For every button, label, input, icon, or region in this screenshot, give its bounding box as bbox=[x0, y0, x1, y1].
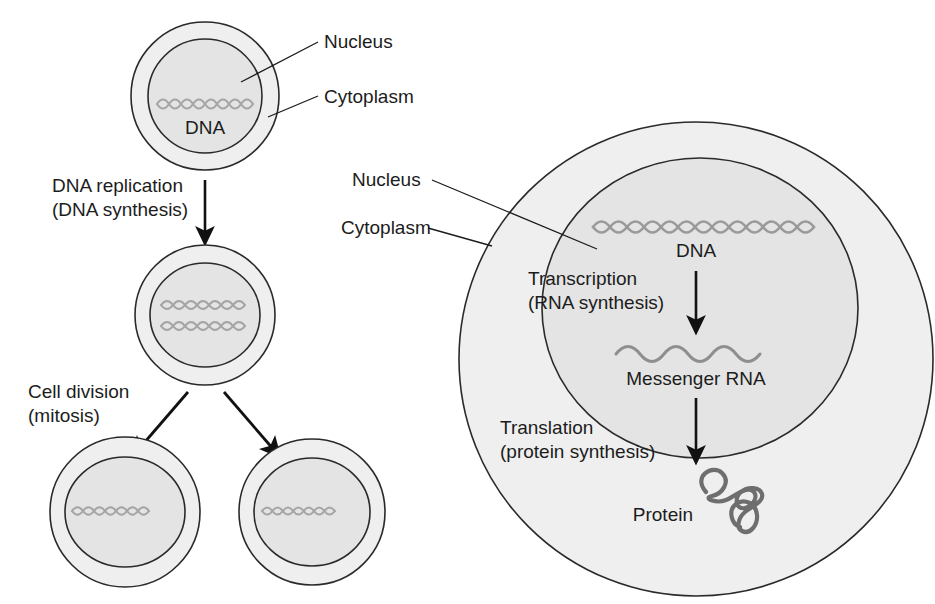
cell-division-arrow-right bbox=[224, 392, 274, 450]
parent-cell-dna-label: DNA bbox=[185, 117, 225, 138]
parent-cytoplasm-label: Cytoplasm bbox=[324, 86, 414, 107]
dna-replication-label-line1: DNA replication bbox=[52, 175, 183, 196]
right-cytoplasm-leader-line bbox=[428, 228, 492, 246]
gene-expression-cell bbox=[459, 122, 933, 596]
cell-division-label-line1: Cell division bbox=[28, 381, 129, 402]
transcription-label-line2: (RNA synthesis) bbox=[528, 292, 664, 313]
parent-nucleus-label: Nucleus bbox=[324, 31, 393, 52]
cell-biology-diagram: DNA Nucleus Cytoplasm DNA replication (D… bbox=[0, 0, 935, 604]
dna-replication-label-line2: (DNA synthesis) bbox=[52, 199, 188, 220]
daughter-cell-right bbox=[239, 439, 385, 585]
replicated-cell bbox=[135, 245, 275, 385]
transcription-label-line1: Transcription bbox=[528, 268, 637, 289]
daughter-cell-left bbox=[50, 437, 200, 587]
right-cytoplasm-label: Cytoplasm bbox=[341, 217, 431, 238]
parent-cell: DNA bbox=[131, 22, 279, 170]
translation-label-line1: Translation bbox=[500, 417, 593, 438]
replicated-cell-nucleus bbox=[150, 263, 260, 367]
translation-label-line2: (protein synthesis) bbox=[500, 441, 655, 462]
messenger-rna-label: Messenger RNA bbox=[626, 368, 766, 389]
cell-division-label-line2: (mitosis) bbox=[28, 405, 100, 426]
protein-label: Protein bbox=[633, 504, 693, 525]
diagram-canvas: DNA Nucleus Cytoplasm DNA replication (D… bbox=[0, 0, 935, 604]
gene-expression-dna-label: DNA bbox=[676, 240, 716, 261]
right-nucleus-label: Nucleus bbox=[352, 169, 421, 190]
